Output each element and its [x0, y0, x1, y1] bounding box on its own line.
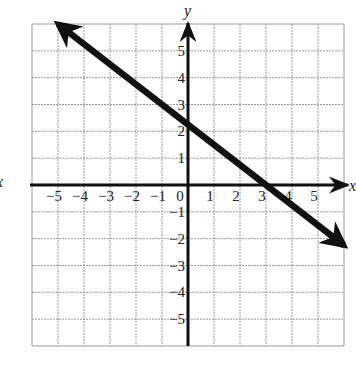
y-tick-label: 4 — [178, 70, 186, 86]
x-tick-label: −5 — [46, 188, 62, 204]
x-tick-label: −1 — [150, 188, 166, 204]
y-tick-label: −4 — [169, 284, 185, 300]
x-tick-label: −4 — [72, 188, 88, 204]
x-tick-label: 1 — [206, 188, 214, 204]
y-tick-label: 2 — [178, 123, 186, 139]
y-tick-label: 3 — [178, 97, 186, 113]
y-tick-label: −3 — [169, 258, 185, 274]
y-tick-label: −2 — [169, 231, 185, 247]
coordinate-plane: −5−4−3−2−1012345−5−4−3−2−112345 x y x — [0, 0, 356, 377]
x-tick-label: −2 — [124, 188, 140, 204]
y-tick-label: −5 — [169, 311, 185, 327]
x-axis-label: x — [348, 177, 356, 194]
axes — [30, 23, 348, 346]
x-tick-label: 5 — [310, 188, 318, 204]
y-tick-label: −1 — [169, 204, 185, 220]
y-tick-label: 5 — [178, 43, 186, 59]
x-tick-label: 3 — [258, 188, 266, 204]
x-tick-label: 0 — [176, 188, 184, 204]
x-axis-label-left-partial: x — [0, 173, 3, 190]
x-tick-label: −3 — [98, 188, 114, 204]
y-tick-label: 1 — [178, 150, 186, 166]
x-tick-label: 2 — [232, 188, 240, 204]
y-axis-label: y — [182, 2, 192, 20]
